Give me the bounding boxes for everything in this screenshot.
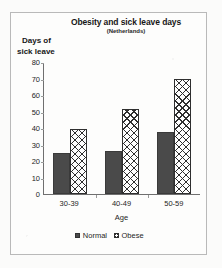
legend-item-obese[interactable]: Obese xyxy=(114,231,144,240)
x-axis-title: Age xyxy=(43,213,200,222)
bar-obese-40-49[interactable] xyxy=(122,109,139,194)
bar-obese-30-39[interactable] xyxy=(70,129,87,195)
figure-frame: Obesity and sick leave days (Netherlands… xyxy=(10,12,207,255)
y-tick-label: 60 xyxy=(32,92,40,100)
bar-group xyxy=(105,63,139,194)
chart-screenshot: Obesity and sick leave days (Netherlands… xyxy=(0,0,222,268)
chart-subtitle: (Netherlands) xyxy=(51,27,201,35)
bar-group xyxy=(157,63,191,194)
y-axis-tick-labels: 80 70 60 50 40 30 20 10 0 xyxy=(22,63,42,195)
y-axis-title-line1: Days of xyxy=(17,35,87,46)
bar-normal-40-49[interactable] xyxy=(105,151,122,194)
legend-label-normal: Normal xyxy=(83,231,107,240)
x-tick-label-30-39: 30-39 xyxy=(49,199,89,208)
bar-obese-50-59[interactable] xyxy=(174,79,191,194)
plot-area: 80 70 60 50 40 30 20 10 0 xyxy=(22,63,200,205)
y-tick-label: 80 xyxy=(32,59,40,67)
x-tick-label-50-59: 50-59 xyxy=(154,199,194,208)
x-axis-tick-labels: 30-39 40-49 50-59 xyxy=(43,199,200,208)
bar-group xyxy=(53,63,87,194)
y-tick-label: 50 xyxy=(32,109,40,117)
hatched-square-icon xyxy=(114,233,119,238)
legend-label-obese: Obese xyxy=(122,231,144,240)
x-tick-label-40-49: 40-49 xyxy=(101,199,141,208)
legend-item-normal[interactable]: Normal xyxy=(75,231,107,240)
chart-axes xyxy=(43,63,200,195)
y-tick-label: 10 xyxy=(32,175,40,183)
y-tick-label: 0 xyxy=(36,191,40,199)
x-tickmark xyxy=(96,195,97,198)
chart-title: Obesity and sick leave days xyxy=(51,17,201,27)
y-tick-label: 40 xyxy=(32,125,40,133)
y-tick-label: 30 xyxy=(32,142,40,150)
bar-normal-30-39[interactable] xyxy=(53,153,70,194)
y-axis-title-line2: sick leave xyxy=(17,46,87,57)
chart-legend: Normal Obese xyxy=(11,231,208,240)
bar-normal-50-59[interactable] xyxy=(157,132,174,194)
y-axis-title: Days of sick leave xyxy=(17,35,87,57)
y-tick-label: 20 xyxy=(32,158,40,166)
bars-area xyxy=(44,63,200,194)
x-tickmark xyxy=(148,195,149,198)
y-tick-label: 70 xyxy=(32,76,40,84)
solid-square-icon xyxy=(75,233,80,238)
